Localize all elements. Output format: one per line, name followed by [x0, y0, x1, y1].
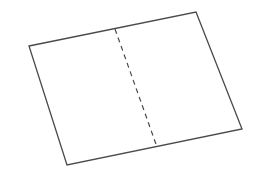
folded-paper-diagram [0, 0, 269, 178]
paper-sheet-outline [29, 12, 242, 165]
diagram-canvas [0, 0, 269, 178]
